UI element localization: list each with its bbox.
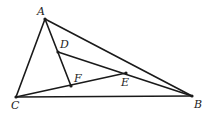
label-C: C <box>11 99 20 112</box>
segments <box>16 19 192 97</box>
segment-CB <box>16 96 192 97</box>
point-F <box>69 84 72 87</box>
label-A: A <box>36 5 45 18</box>
point-E <box>124 71 127 74</box>
label-D: D <box>59 38 69 51</box>
label-F: F <box>73 72 82 85</box>
label-B: B <box>193 98 202 111</box>
geometry-diagram: ABCDEF <box>0 0 211 114</box>
segment-AC <box>16 19 45 97</box>
label-E: E <box>120 76 129 89</box>
segment-AB <box>45 19 192 96</box>
